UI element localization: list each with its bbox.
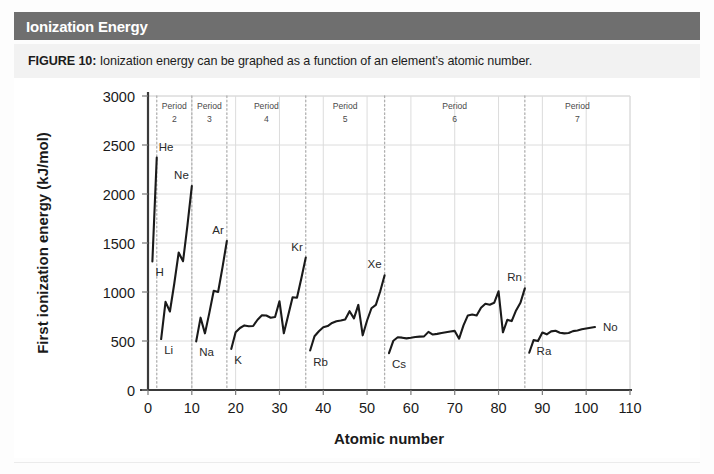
period-band-number: 3: [207, 114, 212, 124]
x-axis-title: Atomic number: [334, 430, 444, 447]
figure-bottom-rule: [14, 462, 700, 463]
ionization-energy-curve: [152, 158, 595, 354]
y-axis-title: First ionization energy (kJ/mol): [34, 132, 51, 354]
chart-plot-area: Period2Period3Period4Period5Period6Perio…: [14, 78, 700, 458]
element-label-cs: Cs: [392, 358, 406, 370]
series-segment: [310, 275, 384, 350]
chart-gridlines: [148, 96, 630, 390]
element-label-rb: Rb: [313, 356, 328, 368]
series-segment: [152, 158, 156, 262]
element-label-ar: Ar: [212, 224, 224, 236]
period-band-number: 6: [452, 114, 457, 124]
y-tick-label: 500: [111, 334, 135, 350]
period-band-label: Period: [333, 101, 358, 111]
series-segment: [161, 186, 192, 339]
element-label-h: H: [155, 266, 163, 278]
element-label-he: He: [159, 141, 174, 153]
period-band-number: 2: [172, 114, 177, 124]
figure-caption-text: Ionization energy can be graphed as a fu…: [96, 54, 532, 68]
y-tick-label: 3000: [103, 89, 135, 105]
figure-title: Ionization Energy: [14, 18, 148, 35]
x-tick-label: 90: [534, 400, 550, 416]
x-axis-tick-labels: 0102030405060708090100110: [144, 390, 642, 416]
x-tick-label: 100: [574, 400, 598, 416]
x-tick-label: 10: [184, 400, 200, 416]
element-label-rn: Rn: [507, 271, 522, 283]
figure-card: Ionization Energy FIGURE 10: Ionization …: [0, 0, 714, 474]
period-band-number: 7: [575, 114, 580, 124]
chart-axes: [140, 92, 632, 390]
period-band-number: 5: [343, 114, 348, 124]
y-tick-label: 0: [127, 383, 135, 399]
element-label-ra: Ra: [537, 345, 552, 357]
x-tick-label: 0: [144, 400, 152, 416]
x-tick-label: 60: [403, 400, 419, 416]
period-band-labels: Period2Period3Period4Period5Period6Perio…: [162, 101, 590, 124]
series-segment: [231, 258, 306, 349]
y-tick-label: 2000: [103, 187, 135, 203]
element-label-xe: Xe: [368, 258, 382, 270]
x-tick-label: 110: [618, 400, 641, 416]
figure-caption-band: FIGURE 10: Ionization energy can be grap…: [14, 44, 700, 79]
element-label-li: Li: [164, 344, 173, 356]
period-band-label: Period: [442, 101, 467, 111]
y-tick-label: 1500: [103, 236, 135, 252]
x-tick-label: 20: [228, 400, 244, 416]
x-tick-label: 50: [359, 400, 375, 416]
period-band-label: Period: [565, 101, 590, 111]
series-segment: [196, 241, 227, 341]
period-band-label: Period: [197, 101, 222, 111]
ionization-energy-line-chart: Period2Period3Period4Period5Period6Perio…: [14, 78, 700, 458]
x-tick-label: 80: [490, 400, 506, 416]
y-tick-label: 2500: [103, 138, 135, 154]
period-band-label: Period: [254, 101, 279, 111]
series-segment: [389, 288, 525, 353]
figure-title-bar: Ionization Energy: [14, 12, 700, 40]
figure-caption: FIGURE 10: Ionization energy can be grap…: [14, 54, 532, 68]
element-label-na: Na: [199, 346, 214, 358]
period-band-number: 4: [264, 114, 269, 124]
y-axis-tick-labels: 050010001500200025003000: [103, 89, 148, 399]
element-label-kr: Kr: [291, 241, 303, 253]
element-label-ne: Ne: [174, 169, 189, 181]
x-tick-label: 70: [447, 400, 463, 416]
element-label-no: No: [603, 321, 618, 333]
y-tick-label: 1000: [103, 285, 135, 301]
figure-number-label: FIGURE 10:: [28, 54, 96, 68]
period-band-label: Period: [162, 101, 187, 111]
element-label-k: K: [234, 354, 242, 366]
x-tick-label: 30: [271, 400, 287, 416]
x-tick-label: 40: [315, 400, 331, 416]
